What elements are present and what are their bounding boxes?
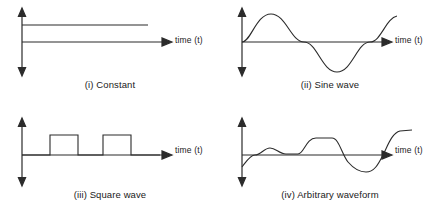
vertical-axis-arrow-down [238, 68, 245, 77]
time-axis-arrow [162, 151, 172, 159]
time-axis-label: time (t) [175, 35, 203, 45]
square-waveform-path [22, 135, 160, 155]
vertical-axis-arrow-up [238, 118, 245, 127]
vertical-axis-arrow-down [18, 68, 25, 77]
vertical-axis-arrow-up [18, 118, 25, 127]
time-axis-label: time (t) [395, 35, 423, 45]
time-axis-label: time (t) [175, 145, 203, 155]
arbitrary-waveform-path [242, 130, 412, 172]
panel-caption: (i) Constant [0, 79, 220, 90]
vertical-axis-arrow-down [238, 178, 245, 187]
vertical-axis-arrow-up [238, 8, 245, 17]
sine-waveform-path [242, 14, 397, 72]
panel-caption: (iv) Arbitrary waveform [220, 189, 440, 200]
panel-square: time (t) (iii) Square wave [0, 105, 220, 211]
waveform-figure-grid: time (t) (i) Constant time (t) (ii) Sine… [0, 0, 440, 211]
panel-sine: time (t) (ii) Sine wave [220, 0, 440, 105]
time-axis-arrow [382, 38, 392, 46]
time-axis-arrow [162, 38, 172, 46]
time-axis-label: time (t) [395, 145, 423, 155]
panel-arbitrary: time (t) (iv) Arbitrary waveform [220, 105, 440, 211]
panel-caption: (iii) Square wave [0, 189, 220, 200]
vertical-axis-arrow-up [18, 8, 25, 17]
panel-caption: (ii) Sine wave [220, 79, 440, 90]
panel-constant: time (t) (i) Constant [0, 0, 220, 105]
vertical-axis-arrow-down [18, 178, 25, 187]
